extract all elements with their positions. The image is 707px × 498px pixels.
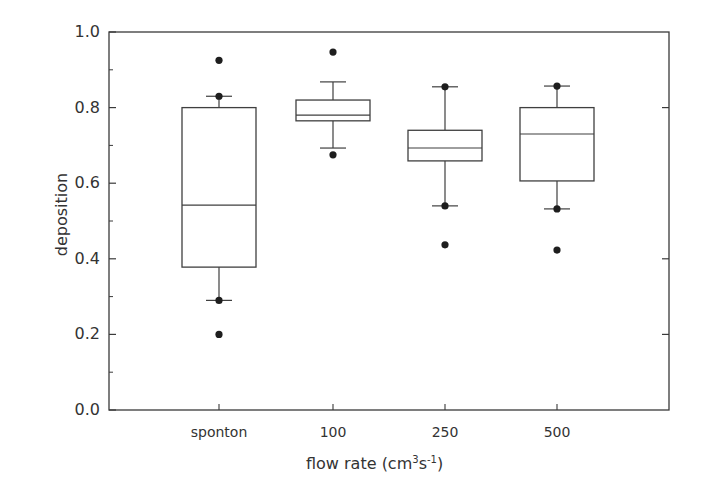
outlier-point (441, 241, 448, 248)
x-tick-label: 100 (283, 424, 383, 440)
x-axis-title-mid: s (419, 454, 427, 473)
box-plot-chart: 0.00.20.40.60.81.0 sponton100250500 depo… (0, 0, 707, 498)
iqr-box (520, 108, 594, 181)
iqr-box (408, 130, 482, 161)
outlier-point (329, 151, 336, 158)
outlier-point (329, 48, 336, 55)
iqr-box (182, 108, 256, 268)
box-500 (520, 82, 594, 253)
y-tick-label: 0.0 (64, 400, 100, 419)
outlier-point (215, 93, 222, 100)
outlier-point (215, 331, 222, 338)
x-tick-label: 250 (395, 424, 495, 440)
x-tick-label: sponton (169, 424, 269, 440)
x-axis-title-sup2: -1 (427, 454, 437, 465)
outlier-point (215, 57, 222, 64)
y-tick-label: 0.8 (64, 98, 100, 117)
box-100 (296, 48, 370, 158)
outlier-point (441, 202, 448, 209)
box-sponton (182, 57, 256, 338)
y-axis-title: deposition (52, 170, 71, 260)
y-tick-label: 0.2 (64, 324, 100, 343)
outlier-point (441, 83, 448, 90)
outlier-point (553, 205, 560, 212)
x-axis-title-end: ) (437, 454, 443, 473)
x-axis-title: flow rate (cm3s-1) (306, 454, 443, 473)
y-tick-label: 1.0 (64, 22, 100, 41)
outlier-point (215, 297, 222, 304)
box-250 (408, 83, 482, 248)
x-axis-title-main: flow rate (cm (306, 454, 412, 473)
x-tick-label: 500 (507, 424, 607, 440)
boxes (182, 48, 594, 338)
iqr-box (296, 100, 370, 121)
outlier-point (553, 82, 560, 89)
outlier-point (553, 247, 560, 254)
